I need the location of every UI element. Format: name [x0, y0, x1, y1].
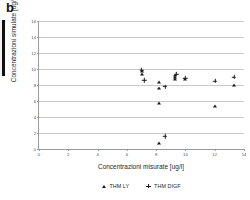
- y-tick-label: 2: [22, 131, 36, 136]
- y-tick-label: 8: [22, 83, 36, 88]
- x-tick-label: 2: [61, 152, 75, 157]
- x-tick-mark: [215, 149, 216, 151]
- x-tick-label: 4: [91, 152, 105, 157]
- y-tick-label: 10: [22, 67, 36, 72]
- gridline-y: [39, 85, 244, 86]
- data-point-cross: [163, 134, 167, 138]
- data-point-cross: [232, 75, 236, 79]
- legend-item[interactable]: THM LY: [101, 183, 129, 189]
- y-tick-mark: [37, 53, 39, 54]
- x-tick-mark: [98, 149, 99, 151]
- y-tick-mark: [37, 21, 39, 22]
- cross-marker-icon: [146, 184, 151, 189]
- x-tick-label: 12: [208, 152, 222, 157]
- gridline-y: [39, 101, 244, 102]
- x-tick-mark: [185, 149, 186, 151]
- x-tick-label: 8: [149, 152, 163, 157]
- x-tick-mark: [244, 149, 245, 151]
- x-tick-mark: [127, 149, 128, 151]
- y-axis-title: Concentrazioni simulate [ug/l]: [10, 0, 17, 100]
- triangle-marker-icon: [101, 184, 106, 189]
- data-point-triangle: [173, 77, 177, 80]
- data-point-cross: [142, 78, 146, 82]
- y-tick-mark: [37, 133, 39, 134]
- y-tick-mark: [37, 117, 39, 118]
- data-point-triangle: [157, 141, 161, 144]
- x-tick-mark: [156, 149, 157, 151]
- data-point-cross: [163, 84, 167, 88]
- legend-item[interactable]: THM DIGF: [146, 183, 180, 189]
- data-point-triangle: [157, 87, 161, 90]
- y-tick-label: 12: [22, 51, 36, 56]
- data-point-cross: [174, 72, 178, 76]
- data-point-triangle: [140, 72, 144, 75]
- y-tick-mark: [37, 69, 39, 70]
- data-point-triangle: [157, 80, 161, 83]
- x-axis-title: Concentrazioni misurate [ug/l]: [38, 163, 244, 170]
- legend-label: THM DIGF: [154, 183, 180, 189]
- gridline-y: [39, 37, 244, 38]
- y-tick-label: 6: [22, 99, 36, 104]
- legend-label: THM LY: [109, 183, 129, 189]
- data-point-cross: [139, 68, 143, 72]
- y-tick-label: 16: [22, 19, 36, 24]
- data-point-triangle: [157, 101, 161, 104]
- figure-panel-b: b 024681012141602468101214 Concentrazion…: [0, 0, 250, 200]
- left-edge-artifact-inner: [0, 20, 2, 76]
- y-tick-mark: [37, 85, 39, 86]
- x-tick-label: 14: [237, 152, 250, 157]
- gridline-y: [39, 133, 244, 134]
- x-tick-label: 6: [120, 152, 134, 157]
- gridline-y: [39, 53, 244, 54]
- y-tick-mark: [37, 101, 39, 102]
- y-tick-label: 14: [22, 35, 36, 40]
- data-point-triangle: [213, 104, 217, 107]
- plot-area: 024681012141602468101214: [38, 21, 244, 150]
- y-tick-label: 0: [22, 147, 36, 152]
- y-tick-mark: [37, 37, 39, 38]
- data-point-cross: [213, 79, 217, 83]
- chart-legend: THM LYTHM DIGF: [38, 183, 244, 189]
- x-tick-mark: [39, 149, 40, 151]
- x-tick-label: 0: [32, 152, 46, 157]
- x-tick-label: 10: [178, 152, 192, 157]
- data-point-triangle: [232, 84, 236, 87]
- gridline-y: [39, 21, 244, 22]
- x-tick-mark: [68, 149, 69, 151]
- y-tick-label: 4: [22, 115, 36, 120]
- gridline-y: [39, 117, 244, 118]
- data-point-cross: [183, 76, 187, 80]
